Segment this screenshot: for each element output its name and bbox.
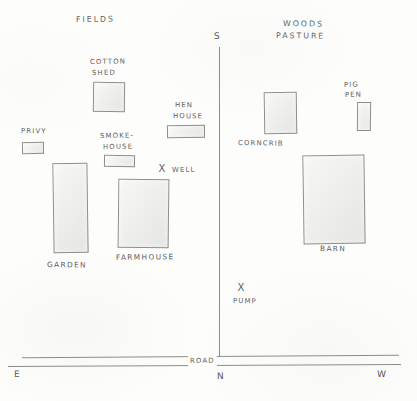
compass-point-w: W xyxy=(377,369,387,380)
cotton-shed-label-line2: SHED xyxy=(92,68,116,79)
privy-label: PRIVY xyxy=(21,126,47,137)
smokehouse-label-line1: SMOKE- xyxy=(100,131,134,142)
hen-house-footprint xyxy=(167,125,205,139)
pump-x-icon: X xyxy=(236,283,246,293)
area-label-woods-pasture-line2: PASTURE xyxy=(276,30,325,42)
compass-point-s: S xyxy=(214,31,220,42)
well-label: WELL xyxy=(172,165,196,176)
compass-point-n: N xyxy=(217,371,224,382)
farmhouse-footprint xyxy=(118,179,170,249)
pig-pen-label-line2: PEN xyxy=(345,90,362,101)
road-label: ROAD xyxy=(188,356,217,367)
barn-label: BARN xyxy=(320,243,346,254)
garden-footprint xyxy=(52,163,88,253)
cotton-shed-footprint xyxy=(93,82,125,112)
farmhouse-label: FARMHOUSE xyxy=(116,251,175,263)
farmstead-map: FIELDS WOODS PASTURE COTTON SHED PRIVY S… xyxy=(0,0,417,401)
area-label-woods-pasture-line1: WOODS xyxy=(283,18,324,29)
compass-point-e: E xyxy=(14,369,20,380)
corncrib-label: CORNCRIB xyxy=(238,138,284,150)
area-label-fields: FIELDS xyxy=(76,13,115,25)
smokehouse-footprint xyxy=(104,155,135,167)
garden-label: GARDEN xyxy=(47,259,87,270)
hen-house-label-line2: HOUSE xyxy=(173,111,203,122)
cotton-shed-label-line1: COTTON xyxy=(90,56,126,68)
driveway-line xyxy=(219,47,220,357)
pump-label: PUMP xyxy=(233,296,257,307)
hen-house-label-line1: HEN xyxy=(175,100,193,111)
barn-footprint xyxy=(302,155,365,245)
corncrib-footprint xyxy=(264,92,298,134)
smokehouse-label-line2: HOUSE xyxy=(103,142,133,153)
privy-footprint xyxy=(22,142,44,154)
well-x-icon: X xyxy=(157,164,167,174)
pig-pen-footprint xyxy=(357,102,371,131)
